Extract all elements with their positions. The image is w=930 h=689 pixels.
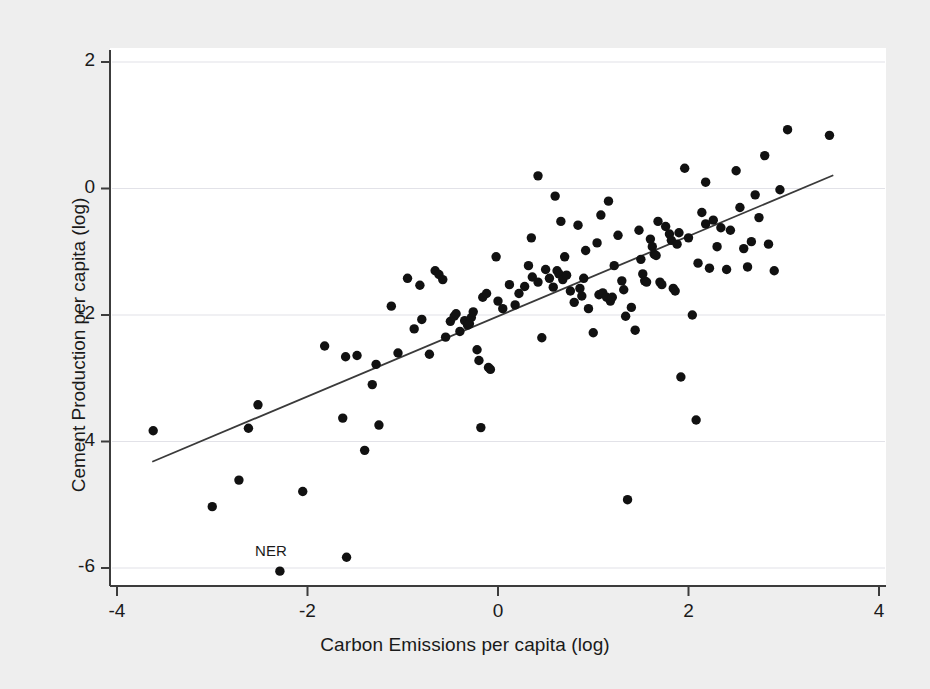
data-point bbox=[474, 356, 483, 365]
data-points bbox=[148, 125, 834, 576]
data-point bbox=[438, 275, 447, 284]
data-point bbox=[581, 246, 590, 255]
data-point bbox=[775, 185, 784, 194]
scatter-plot-svg bbox=[0, 0, 930, 689]
y-tick-label: -4 bbox=[55, 429, 95, 451]
x-tick-label: 0 bbox=[478, 600, 518, 622]
data-point bbox=[455, 327, 464, 336]
data-point bbox=[425, 350, 434, 359]
data-point bbox=[320, 341, 329, 350]
data-point bbox=[556, 217, 565, 226]
data-point bbox=[549, 282, 558, 291]
fit-line-segment bbox=[152, 175, 833, 462]
data-point bbox=[244, 424, 253, 433]
data-point bbox=[735, 203, 744, 212]
regression-line bbox=[152, 175, 833, 462]
data-point bbox=[608, 293, 617, 302]
data-point bbox=[505, 280, 514, 289]
tick-marks bbox=[101, 62, 879, 596]
y-tick-label: -2 bbox=[55, 302, 95, 324]
gridlines bbox=[112, 62, 885, 568]
data-point bbox=[387, 301, 396, 310]
data-point bbox=[510, 300, 519, 309]
data-point bbox=[234, 475, 243, 484]
data-point bbox=[716, 223, 725, 232]
data-point bbox=[722, 265, 731, 274]
data-point bbox=[451, 309, 460, 318]
data-point bbox=[298, 487, 307, 496]
x-tick-label: -2 bbox=[288, 600, 328, 622]
data-point bbox=[360, 446, 369, 455]
data-point bbox=[441, 332, 450, 341]
data-point bbox=[651, 251, 660, 260]
data-point bbox=[342, 553, 351, 562]
data-point bbox=[208, 502, 217, 511]
data-point bbox=[533, 277, 542, 286]
x-axis-title: Carbon Emissions per capita (log) bbox=[0, 634, 930, 656]
data-point bbox=[747, 237, 756, 246]
data-point bbox=[642, 277, 651, 286]
data-point bbox=[596, 210, 605, 219]
data-point bbox=[592, 238, 601, 247]
data-point bbox=[697, 208, 706, 217]
chart-page: -4-2024 20-2-4-6 NER Carbon Emissions pe… bbox=[0, 0, 930, 689]
data-point bbox=[472, 345, 481, 354]
point-label: NER bbox=[255, 542, 287, 559]
data-point bbox=[634, 226, 643, 235]
data-point bbox=[709, 215, 718, 224]
data-point bbox=[541, 265, 550, 274]
y-tick-label: -6 bbox=[55, 555, 95, 577]
data-point bbox=[417, 315, 426, 324]
data-point bbox=[636, 255, 645, 264]
data-point bbox=[701, 177, 710, 186]
data-point bbox=[469, 307, 478, 316]
data-point bbox=[253, 400, 262, 409]
data-point bbox=[371, 360, 380, 369]
data-point bbox=[610, 261, 619, 270]
data-point bbox=[739, 244, 748, 253]
data-point bbox=[482, 289, 491, 298]
data-point bbox=[589, 328, 598, 337]
data-point bbox=[627, 303, 636, 312]
data-point bbox=[684, 233, 693, 242]
data-point bbox=[368, 380, 377, 389]
data-point bbox=[341, 352, 350, 361]
data-point bbox=[676, 372, 685, 381]
data-point bbox=[770, 266, 779, 275]
data-point bbox=[621, 312, 630, 321]
data-point bbox=[584, 304, 593, 313]
y-tick-label: 2 bbox=[55, 49, 95, 71]
data-point bbox=[764, 239, 773, 248]
data-point bbox=[783, 125, 792, 134]
x-tick-label: 4 bbox=[859, 600, 899, 622]
data-point bbox=[527, 233, 536, 242]
data-point bbox=[537, 333, 546, 342]
data-point bbox=[672, 239, 681, 248]
data-point bbox=[562, 270, 571, 279]
data-point bbox=[760, 151, 769, 160]
data-point bbox=[630, 325, 639, 334]
y-tick-label: 0 bbox=[55, 176, 95, 198]
data-point bbox=[604, 196, 613, 205]
data-point bbox=[731, 166, 740, 175]
data-point bbox=[374, 420, 383, 429]
data-point bbox=[403, 274, 412, 283]
data-point bbox=[825, 131, 834, 140]
data-point bbox=[579, 274, 588, 283]
data-point bbox=[533, 171, 542, 180]
data-point bbox=[566, 286, 575, 295]
data-point bbox=[617, 276, 626, 285]
data-point bbox=[524, 261, 533, 270]
data-point bbox=[148, 426, 157, 435]
data-point bbox=[545, 274, 554, 283]
x-tick-label: 2 bbox=[669, 600, 709, 622]
data-point bbox=[657, 280, 666, 289]
data-point bbox=[623, 495, 632, 504]
data-point bbox=[415, 281, 424, 290]
data-point bbox=[498, 304, 507, 313]
data-point bbox=[409, 324, 418, 333]
x-tick-label: -4 bbox=[97, 600, 137, 622]
data-point bbox=[619, 285, 628, 294]
data-point bbox=[613, 231, 622, 240]
data-point bbox=[670, 286, 679, 295]
